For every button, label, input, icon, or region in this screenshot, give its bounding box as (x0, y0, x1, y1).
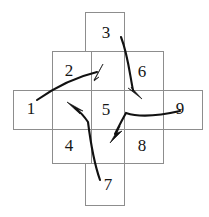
cell-label-2: 2 (65, 61, 74, 80)
cell-label-7: 7 (104, 175, 113, 194)
cell-label-8: 8 (138, 136, 147, 155)
cell-label-6: 6 (138, 62, 147, 81)
diagram-canvas: 123456789 (0, 0, 209, 217)
cell-label-5: 5 (102, 100, 111, 119)
cell-label-3: 3 (102, 23, 111, 42)
cell-label-9: 9 (176, 99, 185, 118)
cell-label-4: 4 (65, 136, 74, 155)
cross-grid-diagram: 123456789 (0, 0, 209, 217)
cell-label-1: 1 (27, 99, 36, 118)
